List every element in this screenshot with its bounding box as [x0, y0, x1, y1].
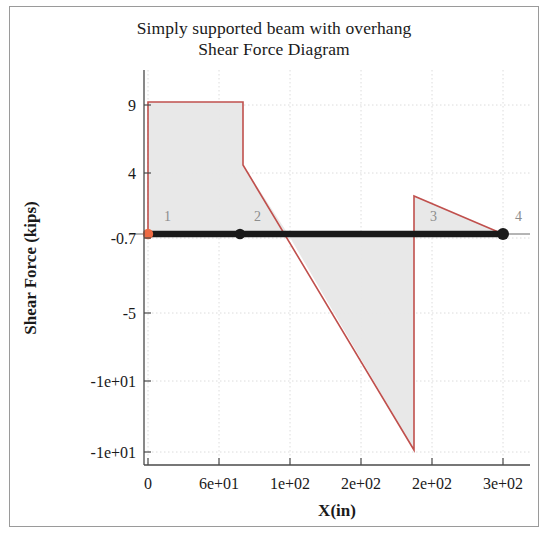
x-axis-title: X(in)	[318, 501, 356, 520]
node-label-4: 4	[515, 209, 522, 224]
x-tick-label-5: 3e+02	[483, 475, 523, 492]
y-tick-label-4: -1e+01	[91, 373, 136, 390]
shear-force-plot: 0 6e+01 1e+02 2e+02 2e+02 3e+02 9 4 -0.7…	[0, 0, 548, 533]
node-marker-2	[235, 229, 245, 239]
node-marker-4	[497, 228, 509, 240]
y-tick-label-0: 9	[128, 97, 136, 114]
x-tick-label-0: 0	[144, 475, 152, 492]
node-label-1: 1	[164, 209, 171, 224]
x-tick-label-3: 2e+02	[341, 475, 381, 492]
y-tick-label-5: -1e+01	[91, 444, 136, 461]
node-label-2: 2	[254, 209, 261, 224]
y-tick-label-3: -5	[123, 305, 136, 322]
y-tick-label-2: -0.7	[111, 230, 136, 247]
x-tick-label-4: 2e+02	[412, 475, 452, 492]
y-tick-label-1: 4	[128, 165, 136, 182]
node-label-3: 3	[430, 209, 437, 224]
figure-canvas: Simply supported beam with overhang Shea…	[0, 0, 548, 533]
x-tick-label-2: 1e+02	[270, 475, 310, 492]
x-tick-label-1: 6e+01	[199, 475, 239, 492]
x-tick-marks	[148, 458, 503, 465]
y-axis-title: Shear Force (kips)	[21, 201, 40, 334]
